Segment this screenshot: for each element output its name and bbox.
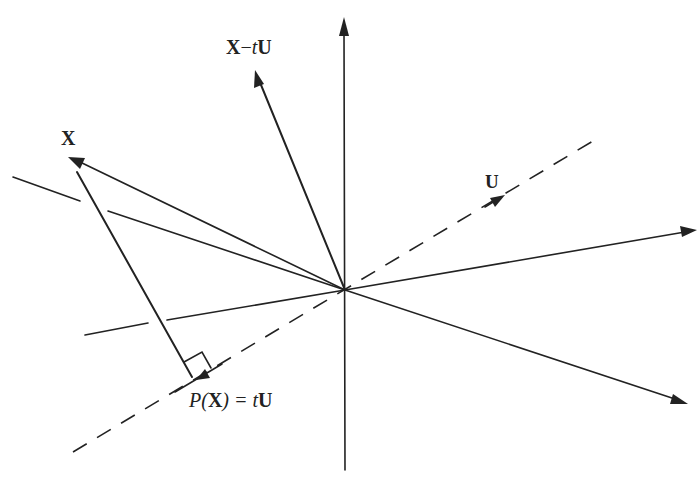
plane-line-lower-left [85,290,345,335]
label-projection-p: P( [189,389,208,411]
plane-axis-right-lower [345,290,688,404]
projection-diagram [0,0,700,487]
right-angle-marker [184,352,211,368]
label-projection-x: X [208,389,222,411]
unit-vector-u [485,195,505,207]
label-x-minus-tu: X−tU [226,36,272,59]
label-u: U [485,171,499,193]
vertical-axis-arrowhead [339,17,349,36]
label-x: X [61,127,75,150]
vector-x-minus-tu [254,70,345,290]
label-x-text: X [61,127,75,149]
label-u-text: U [485,171,499,192]
vector-x [68,157,345,290]
plane-line-upper-left [13,177,345,290]
perpendicular-x-to-projection [77,172,192,377]
line-of-u-dashed [73,138,598,452]
label-projection-u: U [258,389,272,411]
label-x-minus-tu-x: X [226,36,240,58]
label-x-minus-tu-minus: − [240,36,251,58]
projection-vector [175,364,222,392]
label-projection-eq: ) = [222,389,252,411]
label-projection: P(X) = tU [189,389,273,412]
label-x-minus-tu-u: U [257,36,271,58]
vertical-axis [339,17,349,470]
